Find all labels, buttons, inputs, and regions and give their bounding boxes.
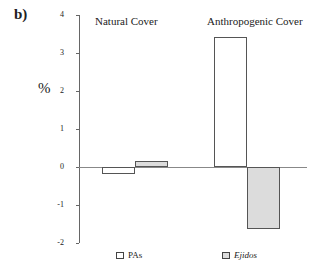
bar-pas-natural-cover (102, 167, 135, 174)
y-tick (76, 53, 79, 54)
y-tick-label: 1 (50, 125, 64, 133)
y-tick-label: -2 (50, 239, 64, 247)
bar-pas-anthropogenic-cover (214, 37, 247, 167)
group-label-natural-cover: Natural Cover (95, 15, 158, 27)
y-tick-label: 0 (50, 163, 64, 171)
legend-item-ejidos: Ejidos (222, 250, 257, 260)
legend-swatch-ejidos-icon (222, 252, 230, 259)
legend-item-pas: PAs (116, 250, 142, 260)
y-axis (79, 15, 80, 243)
bar-ejidos-anthropogenic-cover (247, 167, 280, 229)
legend-text: Ejidos (234, 250, 257, 260)
y-tick-label: 3 (50, 49, 64, 57)
bar-ejidos-natural-cover (135, 161, 168, 167)
group-label-anthropogenic-cover: Anthropogenic Cover (207, 15, 303, 27)
y-tick (76, 15, 79, 16)
panel-label: b) (14, 6, 27, 23)
legend-swatch-pas-icon (116, 252, 124, 259)
y-axis-label: % (38, 80, 51, 97)
legend-text: PAs (128, 250, 142, 260)
y-tick-label: -1 (50, 201, 64, 209)
y-tick (76, 243, 79, 244)
y-tick (76, 91, 79, 92)
y-tick (76, 205, 79, 206)
y-tick-label: 2 (50, 87, 64, 95)
y-tick-label: 4 (50, 11, 64, 19)
y-tick (76, 129, 79, 130)
